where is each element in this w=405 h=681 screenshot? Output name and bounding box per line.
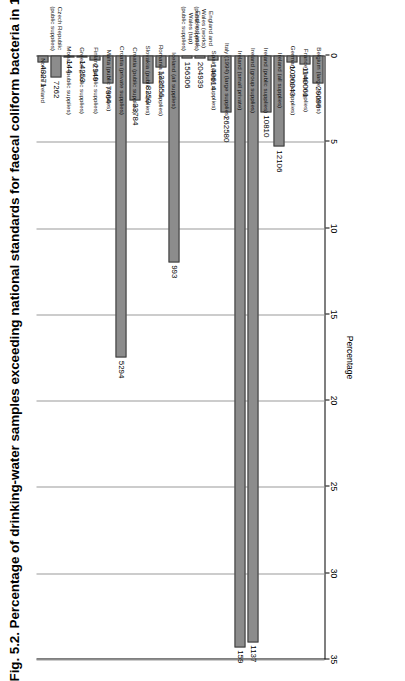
category-label: Croatia (private supplies)	[118, 5, 125, 155]
category-label: Romania (public supplies)	[157, 5, 164, 155]
category-labels: Northern IrelandCzech Republic (public s…	[36, 0, 325, 51]
category-label: Ireland (public supplies)	[262, 5, 269, 155]
category-label: Ireland (small private)	[236, 5, 243, 155]
tick-label: 25	[328, 478, 338, 494]
tick-label: 10	[328, 220, 338, 236]
category-label: Malta (public supplies)	[105, 5, 112, 155]
x-axis-label: Percentage	[344, 55, 354, 659]
bar-value-label: 993	[167, 265, 180, 278]
category-label: Ireland (all supplies)	[276, 5, 283, 155]
bar-value-label: 1137	[246, 645, 259, 662]
category-label: Belgium (large supplies)	[315, 5, 322, 155]
category-label: France (large supplies)	[302, 5, 309, 155]
bar-value-label: 5294	[114, 360, 127, 378]
category-label: Greece (public supplies)	[78, 5, 85, 155]
bar-value-label: 204939	[193, 61, 206, 88]
category-label: Czech Republic (public supplies)	[49, 5, 63, 51]
category-label: Slovakia (public supplies)	[144, 5, 151, 155]
tick-label: 0	[328, 47, 338, 63]
category-label: Spain (large supplies)	[210, 5, 217, 155]
bar-value-label: 159	[233, 650, 246, 663]
bar-value-label: 7262	[49, 80, 62, 98]
figure-title: Fig. 5.2. Percentage of drinking-water s…	[6, 21, 28, 681]
category-label: Northern Ireland	[39, 5, 46, 155]
tick-label: 35	[328, 651, 338, 667]
category-label: Iceland (all supplies)	[170, 5, 177, 155]
bar	[181, 55, 192, 58]
category-label: Monaco (public supplies)	[65, 5, 72, 155]
category-label: Finland (public supplies)	[92, 5, 99, 155]
tick-label: 5	[328, 133, 338, 149]
bar	[50, 55, 61, 77]
rotated-figure-canvas: Fig. 5.2. Percentage of drinking-water s…	[0, 0, 405, 681]
bar	[194, 55, 205, 58]
bar-value-label: 156306	[180, 61, 193, 88]
category-label: Italy (1994) (large supplies)	[223, 5, 230, 155]
figure-page: Fig. 5.2. Percentage of drinking-water s…	[0, 0, 405, 681]
category-label: Ireland (group supplies)	[249, 5, 256, 155]
category-label: Germany (large supplies)	[289, 5, 296, 155]
figure-title-text: Fig. 5.2. Percentage of drinking-water s…	[7, 0, 22, 681]
tick-label: 20	[328, 392, 338, 408]
tick-label: 15	[328, 306, 338, 322]
tick-label: 30	[328, 565, 338, 581]
category-label: Croatia (public supplies)	[131, 5, 138, 155]
